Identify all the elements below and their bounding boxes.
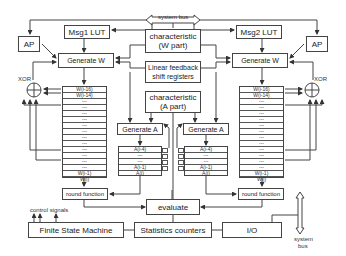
characteristic-a-part: characteristic(A part)	[145, 91, 201, 113]
w-reg-cell: W(i)	[240, 177, 283, 182]
w-register-right: W(i-16)W(i-14)--------------------------…	[239, 86, 284, 178]
lfsr-line2: shift registers	[152, 72, 194, 81]
tap-cell	[178, 160, 184, 165]
lfsr: Linear feedbackshift registers	[145, 61, 201, 83]
system-bus-top-label: system bus	[158, 14, 188, 20]
round-function-right: round function	[238, 188, 284, 200]
msg2-lut-label: Msg2 LUT	[241, 28, 278, 37]
characteristic-w-part: characteristic(W part)	[145, 29, 201, 53]
system-bus-bottom-label-2: bus	[298, 243, 308, 249]
w-reg-cell: W(i)	[63, 177, 106, 182]
evaluate-label: evaluate	[158, 203, 188, 212]
generate-w-right-label: Generate W	[241, 56, 279, 65]
tap-cell	[162, 154, 168, 159]
ap-left: AP	[18, 36, 40, 52]
generate-w-right: Generate W	[232, 53, 288, 68]
tap-cell	[178, 166, 184, 171]
stats-label: Statistics counters	[141, 226, 206, 235]
generate-a-left: Generate A	[117, 123, 163, 135]
ap-right-label: AP	[312, 40, 323, 49]
tap-cell	[162, 160, 168, 165]
a-register-left: A(i-4)------A(i-1)A(i)	[118, 146, 162, 176]
char-w-line1: characteristic	[149, 32, 196, 41]
ap-left-label: AP	[24, 40, 35, 49]
msg1-lut-label: Msg1 LUT	[69, 28, 106, 37]
generate-w-left-label: Generate W	[67, 56, 105, 65]
a-reg-cell: A(i)	[185, 171, 227, 176]
io: I/O	[222, 222, 282, 238]
generate-w-left: Generate W	[58, 53, 114, 68]
tap-cell	[178, 154, 184, 159]
tap-cell	[162, 166, 168, 171]
msg2-lut: Msg2 LUT	[236, 25, 282, 39]
ap-right: AP	[306, 36, 328, 52]
msg1-lut: Msg1 LUT	[64, 25, 110, 39]
round-function-left: round function	[62, 188, 108, 200]
finite-state-machine: Finite State Machine	[28, 222, 124, 238]
generate-a-right-label: Generate A	[188, 125, 223, 134]
char-a-line2: (A part)	[160, 102, 186, 111]
xor-right-label: XOR	[314, 76, 327, 82]
a-reg-cell: A(i)	[119, 171, 161, 176]
fsm-label: Finite State Machine	[40, 226, 113, 235]
char-a-line1: characteristic	[149, 93, 196, 102]
generate-a-right: Generate A	[183, 123, 229, 135]
generate-a-left-label: Generate A	[122, 125, 157, 134]
tap-cell	[178, 148, 184, 153]
round-function-left-label: round function	[66, 190, 104, 199]
xor-left-label: XOR	[18, 76, 31, 82]
tap-cell	[162, 148, 168, 153]
char-w-line2: (W part)	[159, 41, 188, 50]
w-register-left: W(i-16)W(i-14)--------------------------…	[62, 86, 107, 178]
evaluate: evaluate	[146, 199, 200, 215]
a-register-right: A(i-4)------A(i-1)A(i)	[184, 146, 228, 176]
control-signals-label: control signals	[30, 207, 68, 213]
system-bus-bottom-label-1: system	[294, 236, 313, 242]
lfsr-line1: Linear feedback	[148, 63, 198, 72]
statistics-counters: Statistics counters	[134, 222, 212, 238]
round-function-right-label: round function	[242, 190, 280, 199]
io-label: I/O	[247, 226, 258, 235]
